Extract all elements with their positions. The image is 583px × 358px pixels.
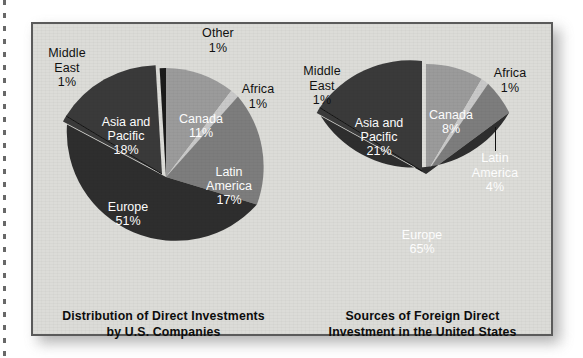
right-label-europe: Europe bbox=[402, 228, 442, 242]
left-label-africa: Africa 1% bbox=[227, 82, 289, 111]
right-label-europe-value: 65% bbox=[409, 242, 434, 256]
scanned-page-edge bbox=[3, 0, 6, 358]
right-label-latin-america: Latin America 4% bbox=[454, 151, 536, 195]
right-chart-caption: Sources of Foreign Direct Investment in … bbox=[296, 308, 549, 340]
left-label-asia-pacific-value: 18% bbox=[113, 143, 138, 157]
left-label-middle-east: Middle East 1% bbox=[33, 46, 101, 90]
right-latin-america-leader-line bbox=[495, 127, 496, 151]
left-label-latin-america-2: America bbox=[206, 179, 252, 193]
right-label-asia-pacific-value: 21% bbox=[366, 144, 391, 158]
left-label-latin-america: Latin bbox=[215, 165, 242, 179]
left-label-latin-america-value: 17% bbox=[216, 193, 241, 207]
left-label-canada: Canada bbox=[179, 112, 223, 126]
right-pie-chart: Asia and Pacific 21% Canada 8% Europe 65… bbox=[294, 24, 551, 338]
left-label-other: Other 1% bbox=[183, 26, 253, 55]
left-label-asia-pacific-2: Pacific bbox=[108, 129, 145, 143]
left-chart-caption: Distribution of Direct Investments by U.… bbox=[37, 308, 290, 340]
figure-root: Asia and Pacific 18% Canada 11% Latin Am… bbox=[0, 0, 583, 358]
left-label-europe: Europe bbox=[108, 200, 148, 214]
left-label-asia-pacific: Asia and bbox=[102, 115, 151, 129]
right-label-asia-pacific-2: Pacific bbox=[361, 130, 398, 144]
left-pie-chart: Asia and Pacific 18% Canada 11% Latin Am… bbox=[33, 24, 294, 338]
right-label-canada: Canada bbox=[429, 108, 473, 122]
right-label-canada-value: 8% bbox=[442, 122, 460, 136]
right-label-asia-pacific: Asia and bbox=[355, 116, 404, 130]
right-label-africa: Africa 1% bbox=[479, 66, 541, 95]
chart-panel: Asia and Pacific 18% Canada 11% Latin Am… bbox=[31, 22, 553, 336]
left-label-europe-value: 51% bbox=[115, 214, 140, 228]
left-label-canada-value: 11% bbox=[189, 126, 213, 140]
right-label-middle-east: Middle East 1% bbox=[288, 64, 356, 108]
